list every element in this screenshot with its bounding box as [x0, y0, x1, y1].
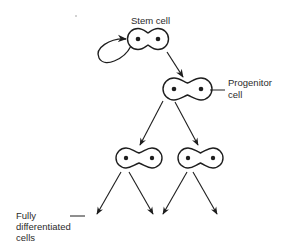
differentiated-label-line2: differentiated [16, 221, 71, 232]
nucleus [124, 156, 128, 160]
stem-cell-diagram [0, 0, 288, 251]
stem-cell-shape [128, 29, 169, 50]
differentiated-label-line3: cells [16, 232, 35, 243]
nucleus [186, 156, 190, 160]
nucleus [172, 87, 177, 92]
speck [75, 15, 77, 17]
self-renewal-loop-arrow [98, 39, 131, 63]
nucleus [199, 87, 204, 92]
daughter-cell-left [116, 148, 162, 168]
arrow-to-differentiated-2 [129, 172, 153, 214]
arrow-to-differentiated-1 [97, 172, 121, 214]
stem-cell-label: Stem cell [131, 15, 170, 26]
progenitor-label-line2: cell [228, 89, 242, 100]
daughter-cell-right [178, 148, 223, 168]
differentiated-label-line1: Fully [16, 210, 36, 221]
nucleus [136, 37, 141, 42]
arrow-stem-to-progenitor [167, 52, 183, 77]
arrow-progenitor-to-right [175, 102, 198, 145]
arrow-to-differentiated-4 [193, 172, 217, 214]
progenitor-cell-shape [163, 78, 212, 100]
nucleus [150, 156, 154, 160]
arrow-progenitor-to-left [140, 101, 163, 145]
nucleus [211, 156, 215, 160]
nucleus [156, 37, 161, 42]
progenitor-label-line1: Progenitor [228, 77, 272, 88]
arrow-to-differentiated-3 [163, 172, 187, 214]
